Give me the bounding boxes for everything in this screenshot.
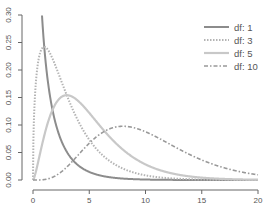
plot-area xyxy=(33,16,258,180)
y-tick-label: 0.30 xyxy=(4,7,13,23)
x-axis: 05101520 xyxy=(31,190,263,205)
legend-label: df: 10 xyxy=(234,61,258,72)
x-tick-label: 20 xyxy=(254,196,263,205)
legend-label: df: 1 xyxy=(234,22,253,33)
series-line-df-3 xyxy=(33,47,258,180)
y-tick-label: 0.20 xyxy=(4,62,13,78)
x-tick-label: 15 xyxy=(197,196,206,205)
legend: df: 1df: 3df: 5df: 10 xyxy=(204,22,258,72)
y-tick-label: 0.05 xyxy=(4,144,13,160)
chi-squared-density-chart: 0.000.050.100.150.200.250.30 05101520 df… xyxy=(0,0,268,205)
legend-item-df-5: df: 5 xyxy=(204,48,253,59)
legend-item-df-10: df: 10 xyxy=(204,61,258,72)
y-axis: 0.000.050.100.150.200.250.30 xyxy=(4,7,22,188)
y-tick-label: 0.00 xyxy=(4,172,13,188)
legend-item-df-1: df: 1 xyxy=(204,22,253,33)
x-tick-label: 10 xyxy=(141,196,150,205)
y-tick-label: 0.10 xyxy=(4,117,13,133)
legend-item-df-3: df: 3 xyxy=(204,35,253,46)
y-tick-label: 0.15 xyxy=(4,89,13,105)
y-tick-label: 0.25 xyxy=(4,34,13,50)
x-tick-label: 0 xyxy=(31,196,36,205)
legend-label: df: 3 xyxy=(234,35,253,46)
x-tick-label: 5 xyxy=(87,196,92,205)
legend-label: df: 5 xyxy=(234,48,253,59)
